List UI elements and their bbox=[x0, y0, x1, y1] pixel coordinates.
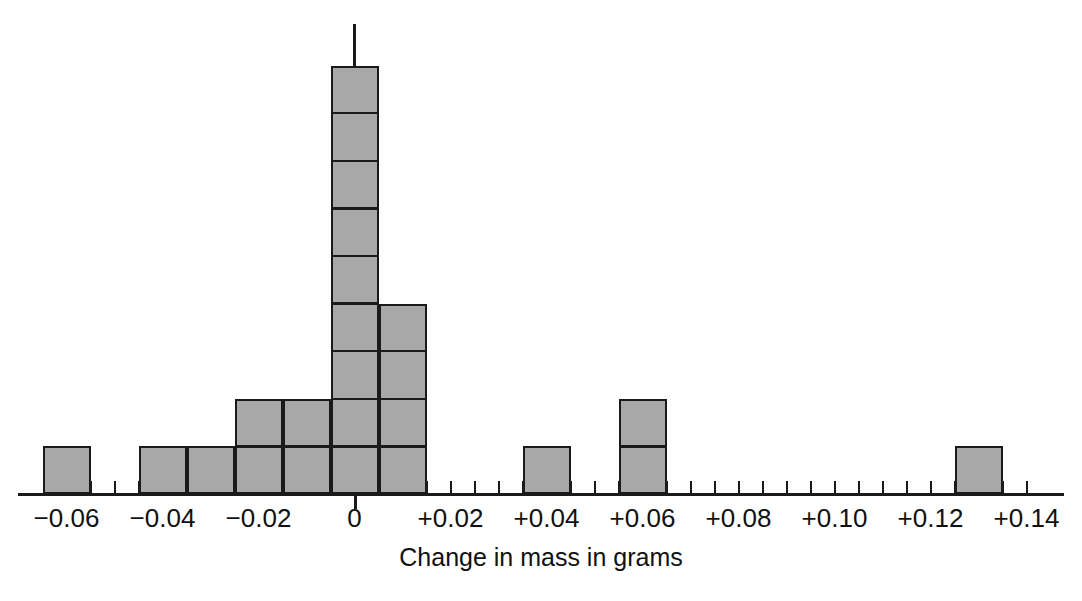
histogram-bar bbox=[187, 446, 235, 494]
x-tick bbox=[498, 481, 500, 494]
bar-unit-divider bbox=[619, 445, 667, 448]
x-tick bbox=[714, 481, 716, 494]
bar-unit-divider bbox=[331, 302, 379, 305]
bar-unit-divider bbox=[379, 350, 427, 353]
x-tick bbox=[450, 481, 452, 494]
x-tick bbox=[930, 481, 932, 494]
x-axis-title: Change in mass in grams bbox=[0, 543, 1082, 572]
bar-unit-divider bbox=[379, 398, 427, 401]
x-tick bbox=[762, 481, 764, 494]
histogram-bar bbox=[331, 66, 379, 494]
x-tick bbox=[690, 481, 692, 494]
bar-unit-divider bbox=[331, 207, 379, 210]
bar-unit-divider bbox=[331, 160, 379, 163]
bar-unit-divider bbox=[331, 255, 379, 258]
bar-unit-divider bbox=[331, 350, 379, 353]
histogram-figure: −0.06−0.04−0.020+0.02+0.04+0.06+0.08+0.1… bbox=[0, 0, 1082, 601]
histogram-bar bbox=[139, 446, 187, 494]
x-tick-label: +0.14 bbox=[957, 503, 1082, 534]
x-tick bbox=[786, 481, 788, 494]
x-tick bbox=[906, 481, 908, 494]
x-tick bbox=[834, 481, 836, 494]
bar-unit-divider bbox=[331, 445, 379, 448]
plot-area: −0.06−0.04−0.020+0.02+0.04+0.06+0.08+0.1… bbox=[0, 0, 1082, 601]
x-tick bbox=[738, 481, 740, 494]
bar-unit-divider bbox=[331, 112, 379, 115]
bar-unit-divider bbox=[283, 445, 331, 448]
histogram-bar bbox=[955, 446, 1003, 494]
x-tick bbox=[858, 481, 860, 494]
x-tick bbox=[882, 481, 884, 494]
bar-unit-divider bbox=[235, 445, 283, 448]
histogram-bar bbox=[43, 446, 91, 494]
x-tick bbox=[594, 481, 596, 494]
bar-unit-divider bbox=[379, 445, 427, 448]
x-tick bbox=[474, 481, 476, 494]
histogram-bar bbox=[523, 446, 571, 494]
bar-unit-divider bbox=[331, 398, 379, 401]
x-tick bbox=[1026, 481, 1028, 494]
x-tick bbox=[810, 481, 812, 494]
x-tick bbox=[114, 481, 116, 494]
